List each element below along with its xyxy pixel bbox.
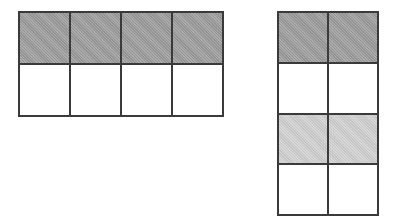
right-grid	[277, 11, 379, 216]
grid-cell	[279, 165, 327, 214]
grid-cell	[122, 13, 171, 63]
grid-cell	[279, 64, 327, 113]
grid-cell	[173, 65, 222, 115]
grid-cell	[329, 64, 377, 113]
grid-cell	[279, 13, 327, 62]
grid-cell	[173, 13, 222, 63]
grid-cell	[71, 13, 120, 63]
grid-cell	[279, 115, 327, 164]
grid-cell	[71, 65, 120, 115]
grid-cell	[122, 65, 171, 115]
figure-canvas	[0, 0, 396, 223]
grid-cell	[329, 13, 377, 62]
grid-cell	[329, 115, 377, 164]
grid-cell	[20, 65, 69, 115]
grid-cell	[329, 165, 377, 214]
grid-cell	[20, 13, 69, 63]
left-grid	[18, 11, 224, 117]
